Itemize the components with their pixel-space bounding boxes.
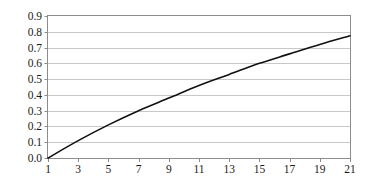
x-axis-label: 11 (193, 163, 204, 175)
y-axis-label: 0.8 (28, 26, 43, 38)
x-axis-label: 19 (314, 163, 326, 175)
x-axis-label: 7 (136, 163, 142, 175)
line-chart-figure: 0.00.10.20.30.40.50.60.70.80.9 135791113… (0, 0, 370, 183)
y-axis-label: 0.0 (28, 152, 43, 164)
y-axis-label: 0.6 (28, 57, 43, 69)
x-axis-label: 5 (106, 163, 112, 175)
x-axis-label: 15 (254, 163, 266, 175)
x-axis-label: 21 (344, 163, 356, 175)
y-axis-label: 0.4 (28, 89, 43, 101)
y-axis-label: 0.3 (28, 105, 43, 117)
x-axis-label: 1 (45, 163, 51, 175)
y-axis-label: 0.9 (28, 10, 43, 22)
y-axis-label: 0.5 (28, 73, 43, 85)
x-axis-label: 13 (223, 163, 235, 175)
x-axis-label: 17 (284, 163, 296, 175)
chart-canvas: 0.00.10.20.30.40.50.60.70.80.9 135791113… (0, 0, 370, 183)
x-axis-label: 9 (166, 163, 172, 175)
y-axis-label: 0.1 (28, 136, 43, 148)
x-axis-label: 3 (75, 163, 81, 175)
y-axis-label: 0.7 (28, 42, 43, 54)
y-axis-label: 0.2 (28, 120, 43, 132)
